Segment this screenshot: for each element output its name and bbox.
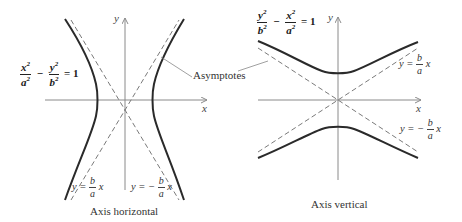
right-equation: y2b2 − x2a2 = 1: [257, 9, 315, 35]
left-caption: Axis horizontal: [90, 205, 158, 217]
right-asymptote-positive-label: y = ba x: [399, 53, 430, 76]
left-panel-graph: [45, 18, 207, 200]
right-y-axis-label: y: [328, 11, 333, 23]
left-hyperbola-left-branch: [65, 19, 98, 200]
left-x-axis-label: x: [202, 102, 207, 114]
left-equation: x2a2 − y2b2 = 1: [20, 61, 78, 87]
right-asymptote-negative-label: y = − ba x: [400, 118, 441, 141]
right-x-axis-label: x: [416, 102, 421, 114]
left-asymptotes-leader: [161, 57, 192, 77]
left-asymptote-positive-label: y = ba x: [72, 176, 103, 199]
asymptotes-label: Asymptotes: [193, 69, 246, 81]
hyperbola-diagram: [0, 0, 462, 222]
right-panel-graph: [238, 17, 421, 180]
right-caption: Axis vertical: [311, 198, 368, 210]
left-y-axis-label: y: [114, 12, 119, 24]
left-asymptote-negative-label: y = − ba x: [131, 176, 172, 199]
left-hyperbola-right-branch: [153, 19, 185, 200]
